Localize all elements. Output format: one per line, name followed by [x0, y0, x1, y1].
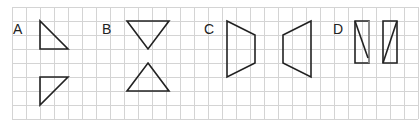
- diagonal-d-left: [355, 21, 368, 58]
- reflection-figure: A B C D: [0, 0, 419, 125]
- panel-label-d: D: [333, 21, 343, 37]
- panel-b: B: [102, 21, 169, 91]
- panel-label-c: C: [204, 21, 214, 37]
- panel-d: D: [333, 21, 397, 63]
- panel-label-a: A: [13, 21, 23, 37]
- panel-label-b: B: [102, 21, 111, 37]
